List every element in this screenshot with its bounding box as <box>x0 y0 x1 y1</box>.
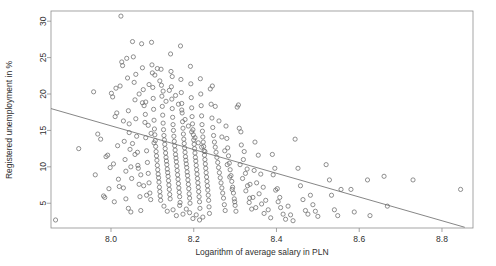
data-point <box>216 160 220 164</box>
data-point <box>218 176 222 180</box>
data-point <box>214 150 218 154</box>
data-point <box>131 55 135 59</box>
data-point <box>158 194 162 198</box>
data-point <box>127 122 131 126</box>
x-tick-label: 8.4 <box>271 234 283 244</box>
data-point <box>116 177 120 181</box>
data-point <box>173 148 177 152</box>
data-point <box>144 149 148 153</box>
data-point <box>108 165 112 169</box>
data-point <box>129 210 133 214</box>
plot-frame <box>51 11 473 228</box>
data-point <box>239 143 243 147</box>
data-point <box>255 181 259 185</box>
data-point <box>118 84 122 88</box>
data-point <box>167 183 171 187</box>
data-point <box>175 168 179 172</box>
data-point <box>161 128 165 132</box>
data-point <box>145 160 149 164</box>
data-point <box>157 180 161 184</box>
data-point <box>179 90 183 94</box>
data-point <box>143 112 147 116</box>
data-point <box>77 147 81 151</box>
data-point <box>196 185 200 189</box>
data-point <box>124 169 128 173</box>
data-point <box>195 172 199 176</box>
data-point <box>158 189 162 193</box>
data-point <box>209 102 213 106</box>
data-point <box>164 151 168 155</box>
data-point <box>217 171 221 175</box>
data-point <box>262 211 266 215</box>
data-point <box>188 201 192 205</box>
data-point <box>124 197 128 201</box>
data-point <box>171 208 175 212</box>
data-point <box>182 141 186 145</box>
data-point <box>147 82 151 86</box>
data-point <box>189 96 193 100</box>
y-tick-label: 15 <box>38 125 48 135</box>
data-point <box>174 214 178 218</box>
data-point <box>107 187 111 191</box>
data-point <box>192 142 196 146</box>
scatter-plot-figure: 51015202530 8.08.28.48.68.8 Logarithm of… <box>0 0 496 266</box>
data-point <box>177 190 181 194</box>
data-points-group <box>53 14 462 223</box>
data-point <box>170 97 174 101</box>
data-point <box>170 74 174 78</box>
data-point <box>223 208 227 212</box>
data-point <box>172 134 176 138</box>
data-point <box>196 181 200 185</box>
data-point <box>269 216 273 220</box>
data-point <box>257 192 261 196</box>
data-point <box>213 104 217 108</box>
data-point <box>211 125 215 129</box>
data-point <box>278 195 282 199</box>
data-point <box>308 193 312 197</box>
y-tick-label: 30 <box>38 16 48 26</box>
data-point <box>177 186 181 190</box>
data-point <box>203 157 207 161</box>
data-point <box>201 135 205 139</box>
data-point <box>212 140 216 144</box>
data-point <box>136 163 140 167</box>
data-point <box>207 198 211 202</box>
data-point <box>208 87 212 91</box>
data-point <box>169 69 173 73</box>
data-point <box>230 179 234 183</box>
data-point <box>121 119 125 123</box>
data-point <box>311 203 315 207</box>
data-point <box>254 206 258 210</box>
data-point <box>195 168 199 172</box>
data-point <box>170 106 174 110</box>
data-point <box>166 179 170 183</box>
data-point <box>219 181 223 185</box>
data-point <box>151 85 155 89</box>
data-point <box>156 168 160 172</box>
data-point <box>217 119 221 123</box>
data-point <box>139 173 143 177</box>
data-point <box>154 149 158 153</box>
data-point <box>256 153 260 157</box>
data-point <box>135 134 139 138</box>
data-point <box>225 136 229 140</box>
data-point <box>226 154 230 158</box>
data-point <box>163 147 167 151</box>
data-point <box>204 171 208 175</box>
data-point <box>201 215 205 219</box>
data-point <box>171 123 175 127</box>
data-point <box>327 178 331 182</box>
data-point <box>168 197 172 201</box>
data-point <box>128 147 132 151</box>
data-point <box>133 98 137 102</box>
data-point <box>161 113 165 117</box>
data-point <box>116 144 120 148</box>
data-point <box>197 195 201 199</box>
data-point <box>339 187 343 191</box>
data-point <box>179 77 183 81</box>
data-point <box>228 168 232 172</box>
data-point <box>152 127 156 131</box>
plot-canvas: 51015202530 8.08.28.48.68.8 Logarithm of… <box>0 0 496 266</box>
data-point <box>368 214 372 218</box>
data-point <box>178 203 182 207</box>
